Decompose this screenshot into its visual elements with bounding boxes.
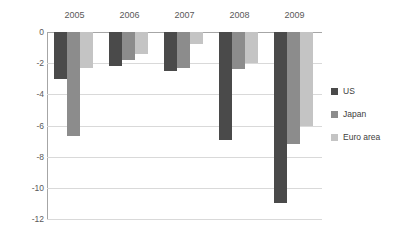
plot-area	[47, 32, 322, 219]
bar-group-2007	[157, 32, 212, 219]
gridline	[47, 219, 322, 220]
y-axis-tick--10: -10	[4, 183, 44, 193]
bar-us-2005	[54, 32, 67, 79]
bar-japan-2006	[122, 32, 135, 60]
chart-legend: USJapanEuro area	[331, 86, 401, 155]
bar-euro-area-2006	[135, 32, 148, 54]
bar-groups	[47, 32, 322, 219]
bar-japan-2005	[67, 32, 80, 136]
bars	[102, 32, 157, 219]
y-axis-tick--4: -4	[4, 89, 44, 99]
bar-us-2007	[164, 32, 177, 71]
bar-euro-area-2009	[300, 32, 313, 126]
legend-label: Euro area	[343, 132, 380, 142]
bar-group-2009	[267, 32, 322, 219]
bar-us-2008	[219, 32, 232, 140]
legend-item-us[interactable]: US	[331, 86, 401, 96]
bar-euro-area-2008	[245, 32, 258, 63]
bar-group-2006	[102, 32, 157, 219]
x-axis-label-2007: 2007	[157, 6, 212, 24]
y-axis-tick--12: -12	[4, 214, 44, 224]
legend-label: Japan	[343, 109, 366, 119]
bar-us-2009	[274, 32, 287, 203]
y-axis-tick--6: -6	[4, 121, 44, 131]
y-axis-tick-0: 0	[4, 27, 44, 37]
bar-group-2005	[47, 32, 102, 219]
bars	[157, 32, 212, 219]
bar-chart: 20052006200720082009 0-2-4-6-8-10-12 USJ…	[0, 0, 404, 235]
x-axis-label-2008: 2008	[212, 6, 267, 24]
x-axis-label-2009: 2009	[267, 6, 322, 24]
bars	[267, 32, 322, 219]
legend-swatch-icon	[331, 134, 338, 141]
x-axis-label-2006: 2006	[102, 6, 157, 24]
bars	[212, 32, 267, 219]
bar-group-2008	[212, 32, 267, 219]
bar-japan-2007	[177, 32, 190, 68]
legend-swatch-icon	[331, 88, 338, 95]
bar-japan-2009	[287, 32, 300, 144]
legend-item-euro-area[interactable]: Euro area	[331, 132, 401, 142]
legend-swatch-icon	[331, 111, 338, 118]
y-axis-tick-labels: 0-2-4-6-8-10-12	[0, 32, 44, 219]
y-axis-tick--8: -8	[4, 152, 44, 162]
x-axis-label-2005: 2005	[47, 6, 102, 24]
bar-japan-2008	[232, 32, 245, 69]
bar-euro-area-2007	[190, 32, 203, 44]
bar-us-2006	[109, 32, 122, 66]
legend-label: US	[343, 86, 355, 96]
bars	[47, 32, 102, 219]
y-axis-tick--2: -2	[4, 58, 44, 68]
bar-euro-area-2005	[80, 32, 93, 68]
x-axis-category-labels: 20052006200720082009	[47, 6, 322, 24]
legend-item-japan[interactable]: Japan	[331, 109, 401, 119]
